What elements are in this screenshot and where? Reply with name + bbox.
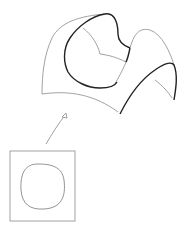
diagram-canvas (0, 0, 186, 229)
parameter-domain (10, 151, 75, 221)
surface-boundary-curve (65, 14, 177, 114)
mapping-arrow (46, 113, 67, 144)
surface-patch (42, 14, 174, 112)
diagram-svg (0, 0, 186, 229)
